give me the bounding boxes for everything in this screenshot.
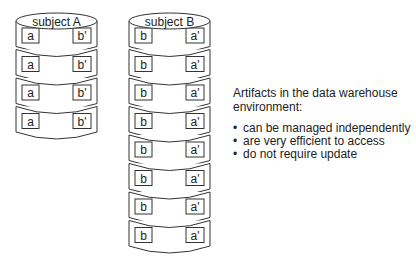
field-label: b — [140, 29, 147, 43]
field-label: a — [27, 86, 34, 100]
field-label: b — [140, 58, 147, 72]
field-label: a' — [191, 229, 200, 243]
field-label: b — [140, 229, 147, 243]
field-label: a' — [191, 29, 200, 43]
bullet-list: can be managed independently are very ef… — [233, 122, 416, 161]
bullet-item: do not require update — [233, 148, 416, 161]
record-segment: ba' — [129, 192, 210, 225]
field-label: b' — [78, 29, 87, 43]
field-label: a' — [191, 86, 200, 100]
record-segment: ba' — [129, 50, 210, 83]
description-panel: Artifacts in the data warehouse environm… — [233, 86, 416, 161]
field-label: a' — [191, 143, 200, 157]
field-label: a' — [191, 115, 200, 129]
description-heading: Artifacts in the data warehouse environm… — [233, 86, 416, 114]
field-label: b' — [78, 58, 87, 72]
record-segment: ba' — [129, 78, 210, 111]
field-label: a — [27, 115, 34, 129]
field-label: b — [140, 172, 147, 186]
field-label: a — [27, 29, 34, 43]
field-label: b' — [78, 86, 87, 100]
cylinder-title: subject B — [145, 15, 194, 29]
field-label: a — [27, 58, 34, 72]
field-label: b' — [78, 115, 87, 129]
field-label: b — [140, 143, 147, 157]
record-segment: ba' — [129, 107, 210, 140]
cylinder-title: subject A — [32, 15, 81, 29]
field-label: b — [140, 115, 147, 129]
record-segment: ab' — [16, 107, 97, 140]
field-label: b — [140, 86, 147, 100]
record-segment: ba' — [129, 221, 210, 254]
record-segment: ba' — [129, 135, 210, 168]
field-label: a' — [191, 200, 200, 214]
field-label: b — [140, 200, 147, 214]
record-segment: ba' — [129, 164, 210, 197]
record-segment: ab' — [16, 50, 97, 83]
record-segment: ab' — [16, 78, 97, 111]
cylinder-subject-b: ba'ba'ba'ba'ba'ba'ba'ba'subject B — [129, 13, 210, 253]
field-label: a' — [191, 58, 200, 72]
cylinder-subject-a: ab'ab'ab'ab'subject A — [16, 13, 97, 139]
field-label: a' — [191, 172, 200, 186]
